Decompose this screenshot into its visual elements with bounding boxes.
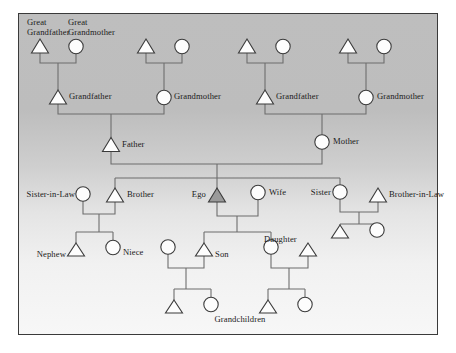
node-sister-in-law[interactable] <box>76 187 90 201</box>
node-great-grandmother-2[interactable] <box>175 39 189 53</box>
node-father[interactable] <box>103 138 120 152</box>
node-daughter-spouse[interactable] <box>300 243 317 256</box>
node-brother-in-law[interactable] <box>370 188 387 202</box>
label-mother: Mother <box>333 137 359 147</box>
node-sister-daughter[interactable] <box>370 223 384 237</box>
node-great-grandfather[interactable] <box>32 39 49 53</box>
node-grandfather-paternal[interactable] <box>50 90 67 104</box>
label-brother: Brother <box>127 190 154 200</box>
label-wife: Wife <box>269 188 286 198</box>
node-sister-son[interactable] <box>332 225 349 238</box>
label-nephew: Nephew <box>37 250 66 260</box>
diagram-canvas <box>0 0 456 353</box>
label-grandfather-paternal: Grandfather <box>69 92 112 102</box>
label-brother-in-law: Brother-in-Law <box>389 190 444 200</box>
kin-nodes <box>32 39 392 313</box>
label-sister-in-law: Sister-in-Law <box>27 190 75 200</box>
node-niece[interactable] <box>106 240 120 254</box>
label-grandfather-maternal: Grandfather <box>276 92 319 102</box>
node-great-grandmother-3[interactable] <box>276 39 290 53</box>
node-brother[interactable] <box>107 188 124 202</box>
node-grandchild-3[interactable] <box>260 300 277 313</box>
label-niece: Niece <box>123 248 144 258</box>
node-ego[interactable] <box>209 188 226 202</box>
node-son[interactable] <box>196 243 213 256</box>
label-great-grandfather-line2: Grandfather <box>27 28 70 38</box>
label-grandmother-maternal: Grandmother <box>377 92 424 102</box>
node-great-grandfather-2[interactable] <box>138 39 155 53</box>
label-grandchildren: Grandchildren <box>215 315 266 325</box>
label-great-grandmother-line2: Grandmother <box>68 28 115 38</box>
node-great-grandfather-4[interactable] <box>340 39 357 53</box>
label-sister: Sister <box>311 188 331 198</box>
node-grandfather-maternal[interactable] <box>257 90 274 104</box>
node-great-grandfather-3[interactable] <box>239 39 256 53</box>
node-grandmother-maternal[interactable] <box>359 90 373 104</box>
label-son: Son <box>215 250 229 260</box>
node-grandchild-1[interactable] <box>166 300 183 313</box>
node-grandchild-4[interactable] <box>298 297 312 311</box>
label-father: Father <box>122 140 145 150</box>
node-grandchild-2[interactable] <box>204 297 218 311</box>
node-nephew[interactable] <box>68 243 85 256</box>
node-wife[interactable] <box>251 185 265 199</box>
node-grandmother-paternal[interactable] <box>157 90 171 104</box>
node-great-grandmother[interactable] <box>69 39 83 53</box>
label-daughter: Daughter <box>264 235 297 245</box>
node-mother[interactable] <box>315 135 329 149</box>
label-ego: Ego <box>192 190 206 200</box>
node-sister[interactable] <box>333 185 347 199</box>
node-great-grandmother-4[interactable] <box>377 39 391 53</box>
label-grandmother-paternal: Grandmother <box>174 92 221 102</box>
node-son-spouse[interactable] <box>161 240 175 254</box>
kinship-diagram: Great Grandfather Great Grandmother Gran… <box>0 0 456 353</box>
